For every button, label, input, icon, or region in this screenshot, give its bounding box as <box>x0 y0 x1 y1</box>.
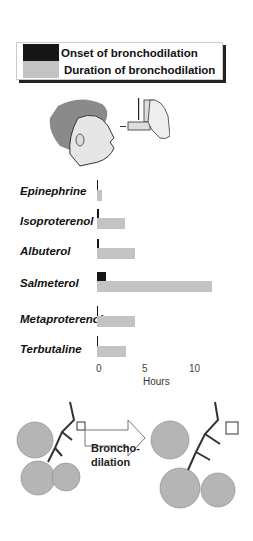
duration-bar <box>97 248 135 259</box>
bronchodilation-arrow-label: Broncho- dilation <box>91 441 140 469</box>
row-epinephrine: Epinephrine <box>0 178 253 208</box>
bronchodilator-chart: Epinephrine Isoproterenol Albuterol Salm… <box>0 170 253 390</box>
row-label: Epinephrine <box>20 185 86 197</box>
row-metaproterenol: Metaproterenol <box>0 306 253 336</box>
legend-item-duration: Duration of bronchodilation <box>23 61 215 78</box>
onset-bar <box>97 272 106 281</box>
legend-item-onset: Onset of bronchodilation <box>23 44 198 61</box>
row-label: Metaproterenol <box>20 313 103 325</box>
onset-bar <box>97 306 98 316</box>
legend: Onset of bronchodilation Duration of bro… <box>16 42 223 80</box>
x-axis-label: Hours <box>143 376 170 387</box>
row-albuterol: Albuterol <box>0 238 253 268</box>
x-tick-5: 5 <box>142 363 148 374</box>
row-terbutaline: Terbutaline <box>0 336 253 366</box>
row-label: Isoproterenol <box>20 215 93 227</box>
onset-bar <box>97 336 98 346</box>
duration-bar <box>97 316 135 327</box>
row-salmeterol: Salmeterol <box>0 268 253 298</box>
x-tick-10: 10 <box>189 363 200 374</box>
duration-bar <box>97 346 126 357</box>
duration-bar <box>97 218 125 229</box>
duration-bar <box>97 190 102 201</box>
onset-bar <box>97 209 99 218</box>
legend-swatch-onset <box>23 44 59 61</box>
inhaler-illustration-icon <box>40 96 170 168</box>
legend-label-duration: Duration of bronchodilation <box>64 64 215 76</box>
legend-swatch-duration <box>23 61 59 78</box>
row-label: Terbutaline <box>20 343 82 355</box>
arrow-label-line1: Broncho- <box>91 441 140 455</box>
duration-bar <box>97 281 212 292</box>
row-label: Albuterol <box>20 245 70 257</box>
onset-bar <box>97 180 98 190</box>
arrow-label-line2: dilation <box>91 455 140 469</box>
onset-bar <box>97 239 99 248</box>
x-tick-0: 0 <box>96 363 102 374</box>
legend-label-onset: Onset of bronchodilation <box>61 47 198 59</box>
row-isoproterenol: Isoproterenol <box>0 208 253 238</box>
row-label: Salmeterol <box>20 277 79 289</box>
